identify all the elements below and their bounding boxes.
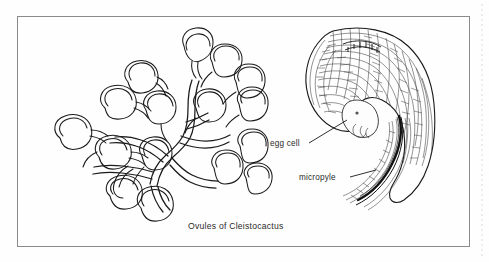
figure-root: egg cell micropyle Ovules of Cleistocact… [0,0,489,262]
botanical-figure: egg cell micropyle Ovules of Cleistocact… [0,0,489,262]
micropyle-label: micropyle [299,173,336,182]
egg-cell-label: egg cell [270,139,300,148]
figure-caption: Ovules of Cleistocactus [188,221,284,231]
